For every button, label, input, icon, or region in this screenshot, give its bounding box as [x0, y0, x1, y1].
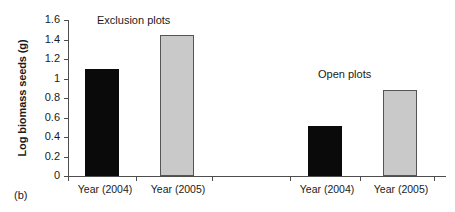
x-label-open-2005: Year (2005): [357, 183, 445, 195]
plot-area: 1.6 1.4 1.2 1 0.8 0.6 0.4 0.2 0: [68, 20, 446, 176]
y-tick-label-1.4: 1.4: [45, 33, 60, 45]
y-tick-label-0.8: 0.8: [45, 91, 60, 103]
y-axis-title: Log biomass seeds (g): [16, 18, 28, 178]
y-tick-label-1: 1: [54, 72, 60, 84]
y-axis-line: [68, 20, 69, 177]
x-label-exclusion-2005: Year (2005): [134, 183, 222, 195]
y-tick-1.4: 1.4: [64, 40, 68, 41]
group-title-exclusion-plots: Exclusion plots: [97, 14, 170, 26]
x-tick-0: [68, 176, 69, 181]
y-tick-0.2: 0.2: [64, 157, 68, 158]
y-tick-0.8: 0.8: [64, 98, 68, 99]
figure-panel-b: Log biomass seeds (g) 1.6 1.4 1.2 1 0.8 …: [0, 0, 455, 212]
panel-caption: (b): [14, 189, 27, 201]
y-tick-1.2: 1.2: [64, 59, 68, 60]
y-tick-label-0.2: 0.2: [45, 150, 60, 162]
bar-open-2005: [383, 90, 417, 176]
y-tick-label-0: 0: [54, 169, 60, 181]
y-tick-1.6: 1.6: [64, 20, 68, 21]
y-tick-1: 1: [64, 79, 68, 80]
x-tick-4: [360, 176, 361, 181]
group-title-open-plots: Open plots: [318, 68, 371, 80]
y-tick-label-1.6: 1.6: [45, 13, 60, 25]
bar-open-2004: [308, 126, 342, 176]
x-tick-1: [136, 176, 137, 181]
x-tick-5: [434, 176, 435, 181]
bar-exclusion-2005: [160, 35, 194, 176]
y-tick-label-0.4: 0.4: [45, 130, 60, 142]
y-tick-label-0.6: 0.6: [45, 111, 60, 123]
bar-exclusion-2004: [85, 69, 119, 176]
y-tick-0.4: 0.4: [64, 137, 68, 138]
y-tick-0.6: 0.6: [64, 118, 68, 119]
x-axis-line: [68, 176, 446, 177]
x-tick-3: [290, 176, 291, 181]
x-tick-2: [212, 176, 213, 181]
y-tick-label-1.2: 1.2: [45, 52, 60, 64]
